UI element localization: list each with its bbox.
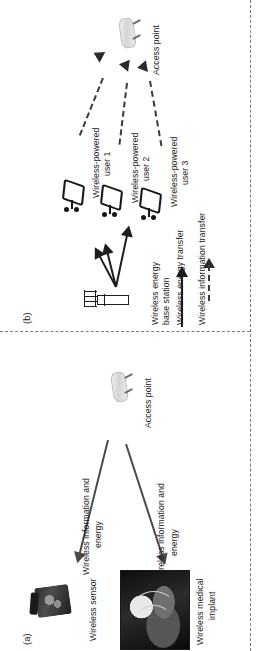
terminal-stem (148, 208, 150, 217)
edge-ap-to-sensor-label-line1: Wireless information and (82, 478, 92, 575)
legend-information-transfer-label: Wireless information transfer (198, 213, 208, 325)
xray-detail (137, 605, 171, 633)
figure-border-right (250, 0, 251, 651)
panel-a-access-point-icon (104, 368, 134, 402)
tower-side (84, 290, 85, 307)
info-arrowhead-user3 (136, 60, 148, 74)
edge-ap-to-implant-label-line1: Wireless information and (157, 483, 167, 580)
terminal-body (100, 184, 123, 212)
terminal-node-dot (151, 215, 156, 220)
wireless-powered-user-3-icon (138, 190, 162, 220)
arrow-head (99, 242, 113, 256)
wireless-powered-user-2-label-line2: user 2 (142, 157, 152, 182)
wireless-powered-user-1-label-line1: Wireless-powered (92, 128, 102, 198)
base-station-label-line1: Wireless energy (151, 262, 161, 325)
terminal-node-dot (74, 207, 79, 212)
terminal-node-dot (141, 215, 146, 220)
terminal-stem (71, 200, 73, 209)
wireless-energy-base-station-icon (84, 288, 128, 310)
wireless-sensor-photo (34, 584, 72, 618)
energy-link-user3 (116, 224, 129, 287)
info-arrowhead-user1 (91, 47, 105, 62)
wireless-powered-user-2-icon (99, 187, 123, 217)
terminal-body (139, 187, 162, 215)
tower-mast (97, 295, 129, 305)
wireless-medical-implant-photo (120, 570, 190, 650)
arrow-head (121, 224, 135, 237)
wireless-powered-user-1-icon (61, 182, 85, 212)
router-antenna-icon (132, 19, 141, 25)
panel-a-id: (a) (22, 633, 33, 645)
legend-info-dash-icon (208, 265, 210, 301)
tower-side (95, 290, 96, 307)
router-antenna-icon (124, 373, 133, 379)
wireless-powered-user-3-label-line1: Wireless-powered (170, 137, 180, 207)
info-arrowhead-user2 (118, 58, 130, 71)
terminal-node-dot (112, 212, 117, 217)
legend-energy-transfer-label: Wireless energy transfer (176, 229, 186, 325)
wireless-powered-user-3-label-line2: user 3 (181, 161, 191, 186)
wireless-powered-user-1-label-line2: user 1 (103, 152, 113, 177)
panel-b-id: (b) (22, 312, 33, 324)
edge-ap-to-sensor-label-line2: energy (94, 521, 104, 548)
info-link-user3 (149, 81, 162, 146)
panel-b-access-point-label: Access point (152, 25, 162, 75)
terminal-stem (109, 205, 111, 214)
wireless-sensor-label: Wireless sensor (89, 578, 99, 641)
terminal-node-dot (64, 207, 69, 212)
wireless-medical-implant-label-line2: implant (208, 592, 218, 620)
edge-ap-to-implant-label-line2: energy (170, 529, 180, 556)
info-link-user2 (118, 83, 128, 145)
panel-divider (0, 331, 250, 332)
wireless-powered-user-2-label-line1: Wireless-powered (131, 133, 141, 203)
wireless-medical-implant-label-line1: Wireless medical (196, 578, 206, 645)
terminal-body (62, 179, 85, 207)
panel-b-access-point-icon (112, 14, 142, 48)
panel-a-access-point-label: Access point (144, 378, 154, 428)
arrow-shaft (115, 234, 129, 287)
terminal-node-dot (102, 212, 107, 217)
base-station-label-line2: base station (162, 277, 172, 325)
figure-canvas: (b) Access point Wireless-powered user 1… (0, 0, 272, 651)
